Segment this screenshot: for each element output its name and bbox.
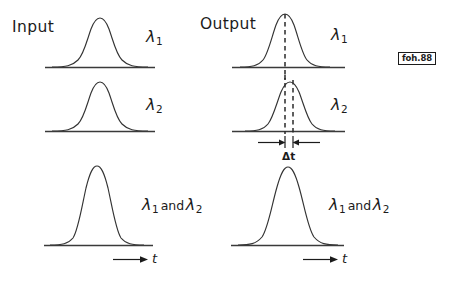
axis-label-t-input: t: [152, 252, 157, 265]
label-input-lambda1: λ1: [146, 29, 163, 47]
curve-output-combined: [238, 167, 338, 245]
curve-input-lambda2: [52, 82, 148, 131]
label-output-lambda1: λ1: [331, 27, 348, 45]
conjunction-and: and: [159, 198, 186, 213]
panel-output-combined: [231, 167, 344, 263]
lambda-subscript: 1: [155, 35, 162, 47]
lambda-glyph-2: λ: [186, 195, 195, 214]
curve-output-lambda2: [245, 82, 335, 131]
lambda-subscript: 2: [340, 103, 347, 115]
lambda-subscript: 1: [340, 33, 347, 45]
panel-input-lambda2: [45, 82, 155, 132]
source-stamp: foh.88: [398, 52, 436, 65]
panel-input-combined: [44, 166, 153, 263]
curve-input-combined: [50, 166, 144, 245]
label-input-lambda2: λ2: [146, 97, 163, 115]
conjunction-and: and: [346, 198, 373, 213]
lambda-subscript-2: 2: [195, 203, 202, 215]
delta-t-annotation: [258, 136, 320, 148]
lambda-subscript: 1: [338, 203, 345, 215]
axis-arrow-input: [113, 256, 148, 263]
panel-output-lambda2: [232, 75, 345, 148]
lambda-subscript: 1: [151, 203, 158, 215]
label-input-combined: λ1andλ2: [142, 197, 202, 215]
source-stamp-text: foh.88: [402, 54, 432, 63]
delta-t-label: Δt: [282, 151, 295, 162]
lambda-subscript-2: 2: [382, 203, 389, 215]
panel-input-lambda1: [45, 18, 155, 68]
label-output-lambda2: λ2: [331, 97, 348, 115]
axis-arrow-output: [303, 256, 338, 263]
pulse-traces: [0, 0, 462, 281]
lambda-glyph-2: λ: [373, 195, 382, 214]
panel-output-lambda1: [232, 14, 345, 80]
lambda-subscript: 2: [155, 103, 162, 115]
figure-canvas: Input Output: [0, 0, 462, 281]
axis-label-t-output: t: [342, 252, 347, 265]
curve-input-lambda1: [52, 18, 148, 67]
label-output-combined: λ1andλ2: [329, 197, 389, 215]
